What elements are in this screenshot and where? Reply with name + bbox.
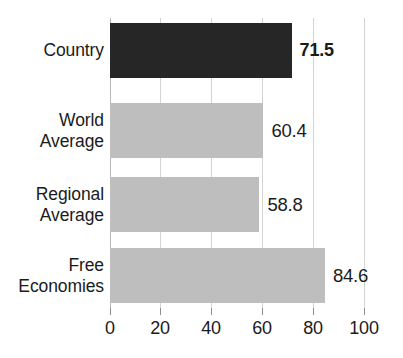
value-label-regional-average: 58.8	[267, 195, 302, 215]
category-label-world-average-line1: World	[0, 110, 104, 130]
value-label-country: 71.5	[300, 40, 334, 60]
bar-chart: Country 71.5 World Average 60.4 Regional…	[0, 0, 403, 358]
x-tick-label-60: 60	[252, 317, 272, 339]
category-label-free-economies-line1: Free	[0, 255, 104, 275]
x-tick-label-80: 80	[303, 317, 323, 339]
bar-country	[110, 23, 292, 78]
x-tick-label-100: 100	[349, 317, 378, 339]
x-axis: 0 20 40 60 80 100	[0, 308, 403, 350]
bar-row-country: Country 71.5	[0, 23, 403, 78]
value-label-free-economies: 84.6	[333, 266, 368, 286]
value-label-world-average: 60.4	[271, 121, 306, 141]
x-tick-40	[211, 308, 212, 315]
x-tick-100	[364, 308, 365, 315]
x-tick-label-20: 20	[150, 317, 170, 339]
category-label-regional-average-line2: Average	[0, 205, 104, 225]
bar-row-world-average: World Average 60.4	[0, 103, 403, 158]
bar-regional-average	[110, 177, 259, 232]
x-tick-0	[110, 308, 111, 315]
category-label-regional-average-line1: Regional	[0, 184, 104, 204]
bar-free-economies	[110, 248, 325, 303]
x-tick-label-0: 0	[105, 317, 115, 339]
x-tick-label-40: 40	[201, 317, 221, 339]
bar-row-free-economies: Free Economies 84.6	[0, 248, 403, 303]
bar-row-regional-average: Regional Average 58.8	[0, 177, 403, 232]
x-tick-20	[160, 308, 161, 315]
category-label-country: Country	[0, 40, 104, 60]
category-label-free-economies-line2: Economies	[0, 276, 104, 296]
x-tick-80	[313, 308, 314, 315]
category-label-world-average-line2: Average	[0, 131, 104, 151]
x-tick-60	[262, 308, 263, 315]
bar-world-average	[110, 103, 263, 158]
